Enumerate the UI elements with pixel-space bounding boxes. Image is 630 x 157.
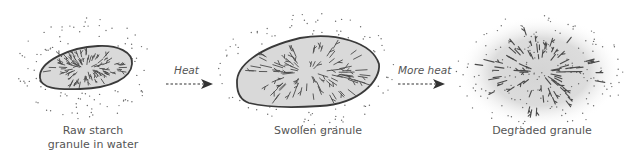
more-heat-arrow (398, 79, 445, 89)
raw-granule-label: Raw starch granule in water (38, 124, 148, 152)
swollen-granule-label: Swollen granule (258, 124, 378, 138)
degraded-granule-label: Degraded granule (482, 124, 602, 138)
heat-arrow (166, 79, 213, 89)
raw-granule (18, 17, 148, 119)
more-heat-arrow-label: More heat (398, 64, 451, 76)
swollen-granule (218, 13, 394, 132)
heat-arrow-label: Heat (174, 64, 199, 76)
degraded-granule (456, 15, 624, 130)
